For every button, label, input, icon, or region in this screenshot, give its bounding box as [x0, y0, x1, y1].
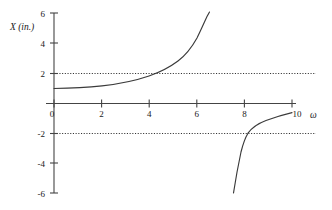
x-tick-labels: 0 2 4 6 8 10	[50, 109, 302, 119]
y-tick-label-minus6: -6	[38, 189, 46, 199]
y-axis-label: X (in.)	[9, 22, 34, 33]
y-tick-label-2: 2	[41, 69, 46, 79]
axes	[46, 13, 296, 193]
x-tick-label-2: 2	[99, 109, 104, 119]
y-tick-label-minus4: -4	[38, 159, 46, 169]
y-tick-label-4: 4	[41, 39, 46, 49]
x-tick-label-4: 4	[147, 109, 152, 119]
x-axis-label: ω	[310, 110, 317, 120]
x-tick-label-0: 0	[50, 109, 55, 119]
x-tick-label-10: 10	[293, 109, 303, 119]
y-tick-labels: 6 4 2 -2 -4 -6	[38, 9, 46, 199]
chart-figure: 6 4 2 -2 -4 -6 0 2 4 6 8 10 X (in.) ω	[0, 0, 332, 210]
x-tick-label-6: 6	[195, 109, 200, 119]
x-tick-label-8: 8	[242, 109, 247, 119]
y-tick-label-minus2: -2	[38, 129, 46, 139]
curve-branch-2	[234, 113, 293, 193]
curve-branch-1	[54, 12, 210, 89]
y-tick-label-6: 6	[41, 9, 46, 19]
chart-canvas: 6 4 2 -2 -4 -6 0 2 4 6 8 10 X (in.) ω	[0, 0, 332, 210]
